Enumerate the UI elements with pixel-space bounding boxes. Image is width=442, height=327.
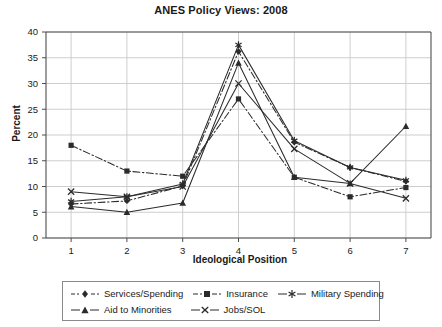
- svg-text:4: 4: [236, 245, 241, 256]
- cross-marker-icon: [190, 304, 220, 316]
- legend-item-services-spending[interactable]: Services/Spending: [70, 288, 183, 300]
- plot-area: 05101520253035401234567: [0, 0, 442, 327]
- asterisk-marker-icon: [277, 288, 307, 300]
- svg-text:2: 2: [124, 245, 129, 256]
- legend-label-military-spending: Military Spending: [311, 288, 384, 300]
- svg-text:20: 20: [27, 129, 38, 140]
- legend-item-insurance[interactable]: Insurance: [192, 288, 268, 300]
- triangle-marker-icon: [70, 304, 100, 316]
- svg-text:6: 6: [347, 245, 352, 256]
- legend-label-insurance: Insurance: [226, 288, 268, 300]
- diamond-marker-icon: [70, 288, 100, 300]
- legend-box: Services/Spending Insurance: [62, 281, 380, 321]
- tick-marks: [42, 32, 406, 242]
- legend-item-jobs-sol[interactable]: Jobs/SOL: [190, 304, 266, 316]
- chart-figure: ANES Policy Views: 2008 Percent Ideologi…: [0, 0, 442, 327]
- legend-item-aid-to-minorities[interactable]: Aid to Minorities: [70, 304, 172, 316]
- svg-text:10: 10: [27, 181, 38, 192]
- svg-text:30: 30: [27, 78, 38, 89]
- svg-text:5: 5: [292, 245, 297, 256]
- legend-item-military-spending[interactable]: Military Spending: [277, 288, 384, 300]
- svg-text:15: 15: [27, 155, 38, 166]
- legend-row-2: Aid to Minorities Jobs/SOL: [70, 302, 373, 318]
- square-marker-icon: [192, 288, 222, 300]
- legend-label-aid-to-minorities: Aid to Minorities: [104, 304, 172, 316]
- tick-labels: 05101520253035401234567: [27, 26, 408, 256]
- svg-text:0: 0: [33, 232, 38, 243]
- svg-text:1: 1: [68, 245, 73, 256]
- legend-row-1: Services/Spending Insurance: [70, 286, 373, 302]
- svg-text:5: 5: [33, 207, 38, 218]
- legend-label-jobs-sol: Jobs/SOL: [224, 304, 266, 316]
- svg-text:25: 25: [27, 104, 38, 115]
- svg-text:35: 35: [27, 52, 38, 63]
- svg-text:7: 7: [403, 245, 408, 256]
- svg-text:3: 3: [180, 245, 185, 256]
- svg-text:40: 40: [27, 26, 38, 37]
- legend-label-services-spending: Services/Spending: [104, 288, 183, 300]
